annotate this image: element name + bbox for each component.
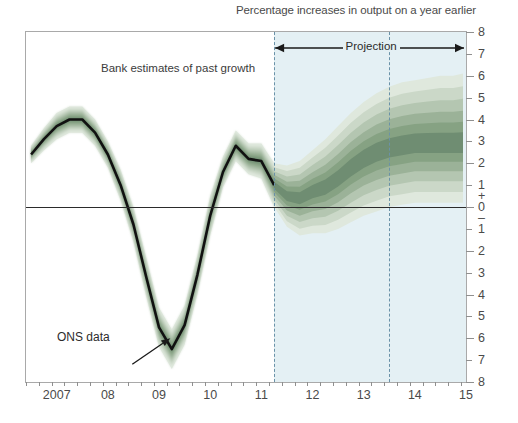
y-axis-tick — [466, 54, 472, 55]
y-axis-tick — [466, 295, 474, 296]
y-axis-tick — [466, 338, 474, 339]
x-axis-tick — [307, 382, 308, 386]
fan-chart: Percentage increases in output on a year… — [0, 0, 518, 423]
chart-title: Percentage increases in output on a year… — [236, 4, 476, 16]
y-axis-tick — [466, 251, 474, 252]
y-axis-tick — [466, 360, 472, 361]
x-axis-tick — [52, 382, 53, 386]
y-axis-label: 8 — [478, 25, 498, 39]
x-axis-tick — [243, 382, 244, 386]
y-axis-tick — [466, 32, 474, 33]
y-axis-label: 7 — [478, 47, 498, 61]
x-axis-tick — [371, 382, 372, 386]
x-axis-tick — [218, 382, 219, 386]
x-axis-tick — [154, 382, 155, 386]
x-axis-tick — [90, 382, 91, 386]
x-axis-tick — [423, 382, 424, 386]
y-axis-tick — [466, 185, 472, 186]
x-axis-label: 09 — [152, 388, 166, 402]
y-axis-tick — [466, 273, 472, 274]
x-axis-tick — [192, 382, 193, 386]
x-axis-tick — [410, 382, 411, 386]
x-axis-label: 15 — [459, 388, 473, 402]
y-axis-tick — [466, 316, 472, 317]
x-axis-tick — [231, 382, 232, 386]
x-axis-tick — [167, 382, 168, 386]
y-axis-tick — [466, 229, 472, 230]
x-axis-tick — [103, 382, 104, 386]
y-axis-label: 3 — [478, 266, 498, 280]
x-axis-tick — [359, 382, 360, 386]
y-axis-tick — [466, 141, 472, 142]
x-axis-label: 10 — [203, 388, 217, 402]
y-axis-label: 4 — [478, 288, 498, 302]
x-axis-label: 08 — [101, 388, 115, 402]
x-axis-tick — [295, 382, 296, 386]
projection-mid-line — [389, 32, 390, 382]
annotation-past-growth: Bank estimates of past growth — [101, 62, 255, 74]
y-axis-label: 8 — [478, 375, 498, 389]
y-axis-label: 2 — [478, 244, 498, 258]
x-axis-tick — [346, 382, 347, 386]
x-axis-tick — [26, 382, 27, 386]
x-axis-label: 14 — [408, 388, 422, 402]
x-axis-tick — [77, 382, 78, 386]
y-axis-plus-sign: + — [478, 189, 498, 203]
x-axis-tick — [269, 382, 270, 386]
y-axis-label: 6 — [478, 331, 498, 345]
y-axis-label: 7 — [478, 353, 498, 367]
x-axis-tick — [384, 382, 385, 386]
x-axis-tick — [282, 382, 283, 386]
x-axis-tick — [320, 382, 321, 386]
y-axis-minus-sign: – — [478, 211, 498, 225]
x-axis-label: 13 — [357, 388, 371, 402]
x-axis-tick — [39, 382, 40, 386]
x-axis-label: 12 — [306, 388, 320, 402]
projection-start-line — [274, 32, 275, 382]
x-axis-tick — [333, 382, 334, 386]
annotation-ons-data: ONS data — [57, 330, 110, 344]
x-axis-tick — [128, 382, 129, 386]
y-axis-tick — [466, 76, 474, 77]
y-axis-label: 4 — [478, 113, 498, 127]
x-axis-tick — [64, 382, 65, 386]
x-axis-tick — [179, 382, 180, 386]
y-axis-tick — [466, 120, 474, 121]
y-axis-label: 5 — [478, 309, 498, 323]
y-axis-label: 5 — [478, 91, 498, 105]
y-axis-label: 2 — [478, 156, 498, 170]
x-axis-label: 2007 — [43, 388, 71, 402]
x-axis-tick — [205, 382, 206, 386]
x-axis-tick — [397, 382, 398, 386]
x-axis-tick — [141, 382, 142, 386]
y-axis-label: 6 — [478, 69, 498, 83]
y-axis-tick — [466, 98, 472, 99]
x-axis-tick — [435, 382, 436, 386]
annotation-projection: Projection — [343, 40, 400, 52]
x-axis-tick — [256, 382, 257, 386]
y-axis-tick — [466, 163, 474, 164]
y-axis-tick — [466, 207, 474, 208]
zero-line — [26, 207, 466, 208]
x-axis-tick — [461, 382, 462, 386]
x-axis-tick — [116, 382, 117, 386]
x-axis-tick — [448, 382, 449, 386]
y-axis-label: 3 — [478, 134, 498, 148]
y-axis-tick — [466, 382, 474, 383]
x-axis-label: 11 — [255, 388, 268, 402]
